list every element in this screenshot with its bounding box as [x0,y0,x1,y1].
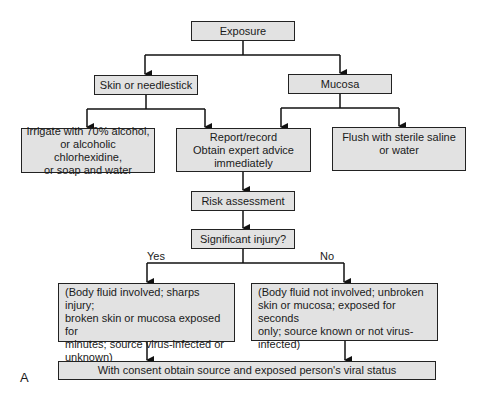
node-irrigate: Irrigate with 70% alcohol, or alcoholic … [21,128,155,173]
node-flush: Flush with sterile saline or water [332,127,466,171]
node-significant-no-criteria: (Body fluid not involved; unbroken skin … [251,283,438,341]
node-significant-yes-criteria: (Body fluid involved; sharps injury; bro… [58,283,235,342]
node-exposure: Exposure [191,21,295,41]
node-significant-injury: Significant injury? [191,229,295,249]
figure-label: A [20,370,29,385]
node-skin-or-needlestick: Skin or needlestick [94,75,198,95]
node-mucosa: Mucosa [288,74,392,94]
edge-label-yes: Yes [147,250,165,263]
node-report-record: Report/record Obtain expert advice immed… [176,128,311,172]
edge-label-no: No [320,250,334,263]
node-consent-viral-status: With consent obtain source and exposed p… [58,361,436,380]
node-risk-assessment: Risk assessment [191,191,295,211]
